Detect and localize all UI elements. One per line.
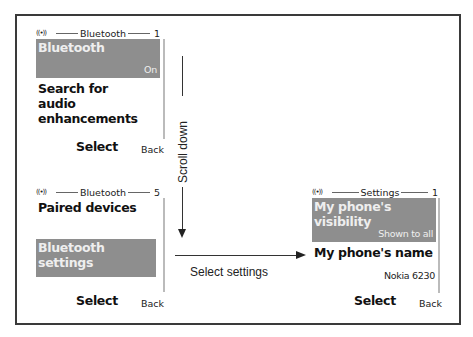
bluetooth-signal-icon: ((•)): [36, 188, 54, 196]
menu-item-label: My phone's name: [314, 245, 433, 260]
header-rule: [401, 192, 428, 193]
softkey-bar: Select Back: [312, 293, 438, 309]
menu-item-label: My phone's visibility: [314, 199, 391, 229]
header-rule: [56, 33, 78, 34]
screen-header: ((•)) Bluetooth 1: [36, 27, 160, 39]
softkey-back[interactable]: Back: [141, 298, 164, 309]
menu-item-bluetooth-settings[interactable]: Bluetooth settings: [36, 239, 156, 277]
bluetooth-signal-icon: ((•)): [36, 29, 54, 37]
menu-item-phone-visibility[interactable]: My phone's visibility Shown to all: [312, 198, 436, 242]
softkey-select[interactable]: Select: [76, 139, 118, 154]
arrow-line-bottom: [182, 187, 183, 229]
phone-screen-settings: ((•)) Settings 1 My phone's visibility S…: [312, 186, 438, 309]
arrow-head-down-icon: [178, 229, 186, 238]
scrollbar[interactable]: [163, 39, 165, 139]
screen-title: Settings: [361, 187, 400, 198]
menu-item-label: Bluetooth: [38, 40, 105, 55]
phone-screen-bluetooth-5: ((•)) Bluetooth 5 Paired devices Bluetoo…: [36, 186, 160, 309]
softkey-bar: Select Back: [36, 139, 160, 155]
menu-item-value: Shown to all: [378, 226, 433, 241]
menu-item-value: On: [144, 62, 157, 77]
phone-screen-bluetooth-1: ((•)) Bluetooth 1 Bluetooth On Search fo…: [36, 27, 160, 155]
arrow-line: [175, 255, 297, 256]
screen-number: 1: [432, 187, 438, 198]
softkey-back[interactable]: Back: [419, 298, 442, 309]
menu-item-label: Search for audio enhancements: [38, 81, 138, 126]
menu-item-value: Nokia 6230: [384, 268, 435, 283]
header-rule: [128, 33, 150, 34]
softkey-select[interactable]: Select: [76, 293, 118, 308]
softkey-back[interactable]: Back: [141, 144, 164, 155]
scroll-down-label: Scroll down: [176, 121, 190, 183]
menu-item-bluetooth[interactable]: Bluetooth On: [36, 39, 160, 78]
scrollbar[interactable]: [438, 198, 440, 293]
arrow-line-top: [182, 56, 183, 96]
select-settings-label: Select settings: [190, 265, 268, 279]
bluetooth-signal-icon: ((•)): [312, 188, 330, 196]
scrollbar[interactable]: [163, 198, 165, 292]
screen-header: ((•)) Bluetooth 5: [36, 186, 160, 198]
menu-item-label: Bluetooth settings: [38, 240, 105, 270]
menu-item-paired-devices[interactable]: Paired devices: [36, 199, 160, 216]
screen-title: Bluetooth: [80, 28, 126, 39]
header-rule: [332, 192, 359, 193]
screen-number: 5: [154, 187, 160, 198]
screen-header: ((•)) Settings 1: [312, 186, 438, 198]
screen-title: Bluetooth: [80, 187, 126, 198]
menu-item-phone-name[interactable]: My phone's name Nokia 6230: [312, 244, 438, 284]
softkey-bar: Select Back: [36, 293, 160, 309]
softkey-select[interactable]: Select: [354, 293, 396, 308]
menu-item-search-audio[interactable]: Search for audio enhancements: [36, 80, 150, 127]
arrow-head-right-icon: [296, 251, 306, 259]
header-rule: [128, 192, 150, 193]
menu-item-label: Paired devices: [38, 200, 136, 215]
header-rule: [56, 192, 78, 193]
screen-number: 1: [154, 28, 160, 39]
